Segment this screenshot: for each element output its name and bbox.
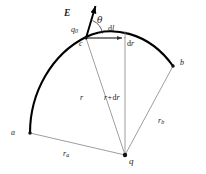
sector-diagram-svg [0, 0, 206, 174]
apex-charge-dot [123, 153, 127, 157]
figure-container: E θ q0 c dl dr r r+dr a b q ra rb [0, 0, 206, 174]
label-point-c: c [79, 40, 83, 48]
label-dl-arc-element: dl [108, 25, 114, 33]
outer-arc [30, 31, 173, 133]
label-radius-a: ra [63, 150, 69, 158]
radius-a-line [30, 133, 125, 155]
label-E-field-vector: E [64, 9, 70, 19]
label-point-a: a [11, 129, 15, 137]
label-theta-angle: θ [97, 16, 102, 25]
label-rb-subscript: b [161, 119, 164, 125]
label-dr-radial-element: dr [127, 40, 134, 48]
label-dr-r: r [131, 39, 134, 48]
label-test-charge-q0: q0 [71, 26, 78, 34]
label-dl-l: l [112, 24, 114, 33]
point-c-dot [84, 36, 87, 39]
label-radius-r-plus-dr: r+dr [104, 94, 120, 102]
label-point-b: b [180, 59, 184, 67]
label-radius-r: r [80, 94, 83, 102]
label-ra-subscript: a [66, 152, 69, 158]
label-test-charge-subscript: 0 [75, 28, 78, 34]
label-r-plus-r: r [117, 93, 120, 102]
radius-b-line [125, 66, 173, 155]
point-b-dot [171, 64, 174, 67]
label-radius-b: rb [158, 117, 164, 125]
label-r-plus: r+ [104, 93, 113, 102]
point-a-dot [28, 131, 31, 134]
label-source-charge-q: q [129, 157, 134, 166]
